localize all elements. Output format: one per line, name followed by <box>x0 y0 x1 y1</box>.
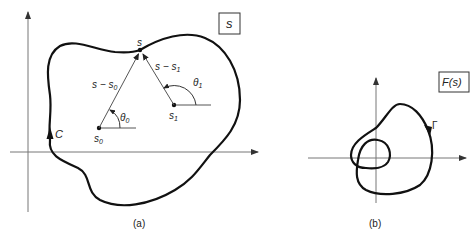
contour-label-gamma: Γ <box>432 120 438 131</box>
point-s0-label: s0 <box>94 133 103 145</box>
theta0-label: θ0 <box>120 112 129 124</box>
theta1-arc <box>164 86 196 105</box>
vector-s-minus-s1-label: s − s1 <box>155 61 180 73</box>
point-s-label: s <box>137 37 142 48</box>
panel-a: s C s s0 s1 s − s0 s − s1 θ0 θ1 (a) <box>10 12 258 229</box>
gamma-direction-arrow-icon <box>424 125 432 136</box>
contour-gamma <box>351 104 432 194</box>
caption-b: (b) <box>369 218 381 229</box>
point-s <box>138 48 142 52</box>
plane-label-s: s <box>226 16 233 31</box>
plane-label-fs: F(s) <box>442 76 462 88</box>
panel-b: F(s) Γ (b) <box>308 72 469 229</box>
caption-a: (a) <box>133 218 145 229</box>
vector-s-minus-s0 <box>99 54 139 128</box>
theta0-arc <box>110 110 120 128</box>
contour-c <box>48 35 240 205</box>
vector-s-minus-s0-label: s − s0 <box>92 79 117 91</box>
point-s1-label: s1 <box>169 110 178 122</box>
nyquist-contour-diagram: s C s s0 s1 s − s0 s − s1 θ0 θ1 (a) <box>0 0 476 240</box>
contour-direction-arrow-icon <box>47 127 54 139</box>
contour-label-c: C <box>55 128 63 140</box>
theta1-label: θ1 <box>193 77 202 89</box>
